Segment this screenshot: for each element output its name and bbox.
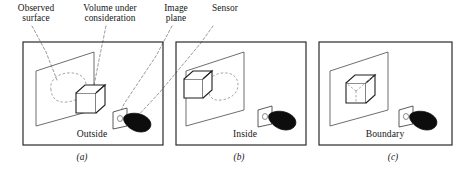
panel-b	[176, 42, 306, 145]
panel-c-border	[319, 42, 452, 145]
panel-a-camera-body	[124, 113, 151, 132]
leader-image-plane	[120, 26, 172, 113]
panel-c-camera-body	[410, 111, 437, 130]
panel-c	[319, 42, 452, 145]
panel-a-sensor	[113, 108, 151, 132]
panel-a-cube	[76, 85, 105, 113]
panel-c-sensor	[399, 106, 437, 130]
panel-c-cube	[346, 75, 375, 103]
diagram-canvas	[0, 0, 467, 172]
panel-b-cube	[184, 71, 212, 98]
panel-b-sensor	[258, 106, 296, 130]
panel-b-camera-body	[269, 111, 296, 130]
figure-container: Observed surface Volume under considerat…	[0, 0, 467, 172]
panel-a	[23, 42, 163, 145]
